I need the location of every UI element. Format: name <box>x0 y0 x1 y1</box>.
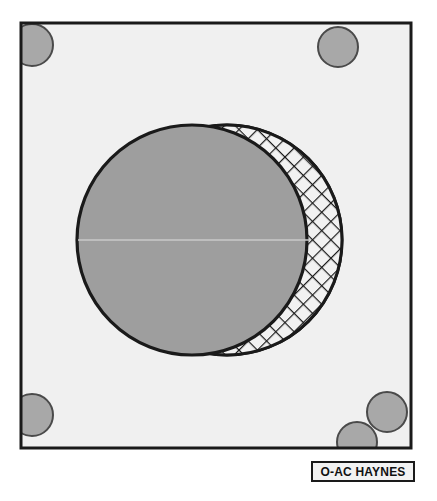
caption-box: O-AC HAYNES <box>311 461 415 482</box>
caption-label: O-AC HAYNES <box>320 465 405 479</box>
figure-page: O-AC HAYNES <box>0 0 437 501</box>
bounding-frame <box>11 23 411 462</box>
stud-top-right <box>318 27 358 67</box>
technical-figure <box>0 0 437 501</box>
stud-bottom-right-upper <box>367 392 407 432</box>
